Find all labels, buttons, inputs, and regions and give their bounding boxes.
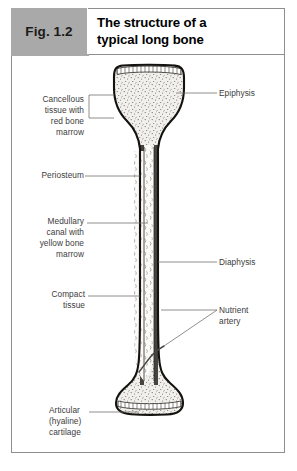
figure-title-box: The structure of a typical long bone [88,8,285,55]
label-cancellous-tissue: Cancellous tissue with red bone marrow [18,94,84,138]
label-epiphysis: Epiphysis [219,88,285,99]
figure-title: The structure of a typical long bone [97,15,207,47]
label-compact-tissue: Compact tissue [18,289,85,311]
figure-number-box: Fig. 1.2 [11,8,88,55]
label-nutrient-artery: Nutrient artery [219,305,285,327]
figure-header: Fig. 1.2 The structure of a typical long… [11,8,285,55]
label-medullary-canal: Medullary canal with yellow bone marrow [16,216,84,260]
label-periosteum: Periosteum [18,170,84,181]
label-articular-cartilage: Articular (hyaline) cartilage [49,405,129,438]
leader-nutrient-artery-a [164,310,217,346]
label-diaphysis: Diaphysis [219,257,285,268]
bone-illustration [106,55,196,453]
figure-root: Fig. 1.2 The structure of a typical long… [0,0,297,471]
figure-number-label: Fig. 1.2 [25,24,72,39]
